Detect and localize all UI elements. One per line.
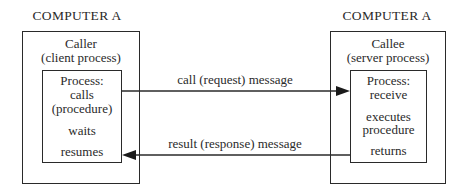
response-message-label: result (response) message: [130, 136, 340, 152]
request-message-label: call (request) message: [140, 72, 330, 88]
message-arrows: [0, 0, 468, 194]
